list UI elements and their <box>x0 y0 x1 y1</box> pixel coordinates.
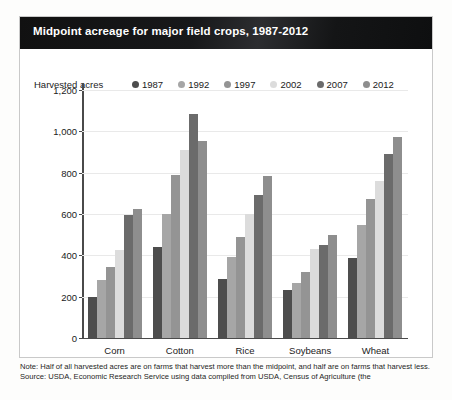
bar-corn-2002[interactable] <box>115 250 124 338</box>
bar-soybeans-2007[interactable] <box>319 245 328 338</box>
bar-wheat-2012[interactable] <box>393 137 402 339</box>
bar-wheat-1992[interactable] <box>357 225 366 338</box>
bar-rice-1987[interactable] <box>218 279 227 338</box>
bar-soybeans-2002[interactable] <box>310 249 319 338</box>
bar-cotton-2007[interactable] <box>189 114 198 338</box>
y-axis-tick-label: 0 <box>72 333 77 344</box>
bar-cotton-1987[interactable] <box>153 247 162 338</box>
bars <box>88 90 142 338</box>
bars <box>283 90 337 338</box>
y-axis-tick-label: 1,200 <box>53 85 77 96</box>
bar-group-wheat: Wheat <box>343 90 408 338</box>
y-axis-tick-label: 400 <box>61 250 77 261</box>
bar-rice-1992[interactable] <box>227 257 236 338</box>
bar-rice-2012[interactable] <box>263 176 272 338</box>
bar-corn-1992[interactable] <box>97 280 106 338</box>
x-axis-label-cotton: Cotton <box>166 345 194 356</box>
bar-corn-2012[interactable] <box>133 209 142 338</box>
chart-card: Midpoint acreage for major field crops, … <box>19 16 433 358</box>
bar-cotton-2002[interactable] <box>180 150 189 338</box>
x-axis-label-corn: Corn <box>104 345 125 356</box>
footnote-source: Source: USDA, Economic Research Service … <box>20 372 436 382</box>
bar-rice-2002[interactable] <box>245 214 254 338</box>
bar-cotton-2012[interactable] <box>198 141 207 338</box>
y-axis-tick-label: 600 <box>61 209 77 220</box>
chart-footnotes: Note: Half of all harvested acres are on… <box>20 362 436 383</box>
bar-wheat-2002[interactable] <box>375 181 384 338</box>
bar-soybeans-1997[interactable] <box>301 272 310 338</box>
bar-group-soybeans: Soybeans <box>278 90 343 338</box>
figure-canvas: Midpoint acreage for major field crops, … <box>0 0 452 400</box>
x-axis-label-soybeans: Soybeans <box>289 345 331 356</box>
bar-group-cotton: Cotton <box>147 90 212 338</box>
bar-cotton-1997[interactable] <box>171 175 180 338</box>
bar-groups: CornCottonRiceSoybeansWheat <box>82 90 408 338</box>
bar-soybeans-1987[interactable] <box>283 290 292 338</box>
bar-cotton-1992[interactable] <box>162 214 171 338</box>
bar-soybeans-2012[interactable] <box>328 235 337 338</box>
plot-area: 02004006008001,0001,200 CornCottonRiceSo… <box>82 90 408 338</box>
bar-corn-1987[interactable] <box>88 297 97 338</box>
bar-corn-2007[interactable] <box>124 215 133 338</box>
bar-wheat-1997[interactable] <box>366 199 375 339</box>
bar-group-corn: Corn <box>82 90 147 338</box>
y-axis-tick-mark <box>79 338 82 339</box>
bar-wheat-2007[interactable] <box>384 154 393 338</box>
x-axis-label-rice: Rice <box>235 345 254 356</box>
y-axis-tick-label: 800 <box>61 167 77 178</box>
y-axis-tick-label: 200 <box>61 291 77 302</box>
bar-rice-2007[interactable] <box>254 195 263 338</box>
bars <box>218 90 272 338</box>
bar-corn-1997[interactable] <box>106 267 115 338</box>
x-axis-label-wheat: Wheat <box>362 345 389 356</box>
bar-rice-1997[interactable] <box>236 237 245 338</box>
bars <box>153 90 207 338</box>
page-title: Midpoint acreage for major field crops, … <box>33 25 308 37</box>
plot-wrapper: 02004006008001,0001,200 CornCottonRiceSo… <box>20 69 434 359</box>
y-axis-tick-label: 1,000 <box>53 126 77 137</box>
bar-soybeans-1992[interactable] <box>292 283 301 338</box>
chart-title-bar: Midpoint acreage for major field crops, … <box>20 17 432 49</box>
bars <box>348 90 402 338</box>
bar-group-rice: Rice <box>212 90 277 338</box>
bar-wheat-1987[interactable] <box>348 258 357 338</box>
footnote-note: Note: Half of all harvested acres are on… <box>20 362 436 372</box>
